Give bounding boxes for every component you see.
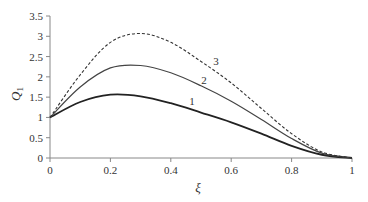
- y-tick-label: 2: [38, 71, 44, 83]
- y-axis: 00.511.522.533.5: [29, 10, 50, 164]
- line-chart: 00.511.522.533.5 00.20.40.60.81 123 ξ Q1: [0, 0, 368, 202]
- curve-label-3: 3: [213, 55, 219, 67]
- series-group: [50, 33, 352, 158]
- curve-label-1: 1: [189, 95, 195, 107]
- y-tick-label: 3: [38, 30, 44, 42]
- y-tick-label: 0.5: [29, 132, 43, 144]
- x-tick-label: 0.6: [224, 164, 238, 176]
- x-tick-label: 1: [349, 164, 355, 176]
- x-tick-label: 0: [47, 164, 53, 176]
- y-tick-label: 3.5: [29, 10, 43, 22]
- x-tick-label: 0.4: [164, 164, 178, 176]
- curve-label-2: 2: [201, 74, 207, 86]
- x-axis: 00.20.40.60.81: [47, 158, 355, 176]
- y-tick-label: 1.5: [29, 91, 43, 103]
- series-line-3: [50, 33, 352, 158]
- svg-text:Q1: Q1: [8, 87, 25, 101]
- y-axis-title: Q1: [8, 87, 25, 101]
- y-tick-label: 0: [38, 152, 44, 164]
- y-tick-label: 1: [38, 111, 44, 123]
- curve-labels: 123: [189, 55, 219, 108]
- x-axis-title: ξ: [195, 180, 201, 195]
- series-line-1: [50, 94, 352, 158]
- x-tick-label: 0.2: [104, 164, 118, 176]
- y-tick-label: 2.5: [29, 51, 43, 63]
- x-tick-label: 0.8: [285, 164, 299, 176]
